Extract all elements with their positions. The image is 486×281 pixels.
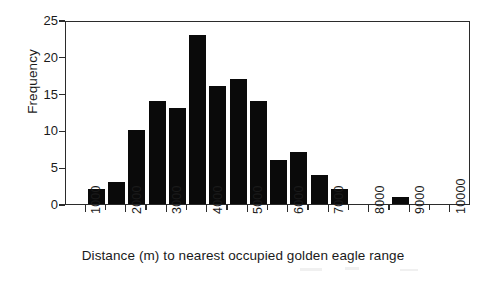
scan-artifact [400, 269, 418, 271]
x-tick-mark-major [125, 205, 126, 212]
x-tick-label: 8000 [374, 185, 387, 214]
x-tick-label: 9000 [414, 185, 427, 214]
x-tick-label: 6000 [293, 185, 306, 214]
y-tick-label: 25 [24, 14, 58, 27]
plot-area [65, 21, 470, 205]
x-tick-mark-major [206, 205, 207, 212]
x-axis-title: Distance (m) to nearest occupied golden … [0, 248, 486, 263]
histogram-figure: Frequency 0510152025 1000200030004000500… [0, 0, 486, 281]
x-tick-label: 3000 [171, 185, 184, 214]
x-tick-mark-major [449, 205, 450, 212]
bar [311, 175, 328, 204]
bar-series [66, 22, 469, 204]
x-tick-mark-minor [429, 205, 430, 210]
bar [189, 35, 206, 204]
scan-artifact [300, 268, 322, 271]
x-tick-label: 4000 [212, 185, 225, 214]
bar [230, 79, 247, 204]
y-tick-label: 15 [24, 88, 58, 101]
x-tick-mark-major [166, 205, 167, 212]
bar [149, 101, 166, 204]
x-tick-mark-major [409, 205, 410, 212]
y-tick-label: 20 [24, 51, 58, 64]
x-tick-mark-minor [388, 205, 389, 210]
x-tick-label: 1000 [90, 185, 103, 214]
x-tick-mark-minor [348, 205, 349, 210]
x-tick-mark-major [247, 205, 248, 212]
x-tick-mark-major [85, 205, 86, 212]
y-tick-label: 10 [24, 124, 58, 137]
x-tick-mark-minor [145, 205, 146, 210]
y-tick-label: 0 [24, 198, 58, 211]
x-tick-mark-minor [267, 205, 268, 210]
bar [108, 182, 125, 204]
x-tick-label: 2000 [131, 185, 144, 214]
bar [270, 160, 287, 204]
x-tick-mark-minor [105, 205, 106, 210]
x-tick-label: 5000 [252, 185, 265, 214]
x-tick-label: 7000 [333, 185, 346, 214]
x-tick-mark-major [368, 205, 369, 212]
bar [392, 197, 409, 204]
x-tick-mark-minor [186, 205, 187, 210]
x-tick-mark-major [287, 205, 288, 212]
y-tick-label: 5 [24, 161, 58, 174]
x-tick-mark-minor [307, 205, 308, 210]
scan-artifact [345, 267, 359, 270]
x-tick-label: 10000 [455, 178, 468, 214]
x-tick-mark-minor [226, 205, 227, 210]
x-tick-mark-major [328, 205, 329, 212]
